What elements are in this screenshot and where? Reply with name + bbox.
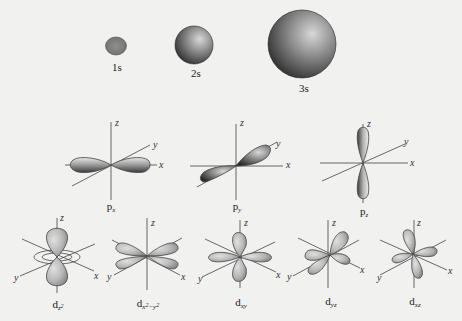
label-py: py xyxy=(233,201,242,214)
axis-label-y: y xyxy=(404,137,408,147)
orbital-shapes xyxy=(0,0,462,321)
label-dyz: dyz xyxy=(325,296,336,309)
orbital-dyz xyxy=(293,220,360,288)
axis-label-x: x xyxy=(410,158,414,168)
orbital-dxz xyxy=(380,220,447,288)
orbital-2s xyxy=(175,26,213,64)
label-3s: 3s xyxy=(299,83,309,94)
axis-label-z: z xyxy=(151,218,155,228)
axis-label-x: x xyxy=(159,160,163,170)
orbital-3s xyxy=(268,10,336,78)
axis-label-y: y xyxy=(276,139,280,149)
label-px: px xyxy=(107,201,116,214)
axis-label-z: z xyxy=(417,218,421,228)
axis-label-z: z xyxy=(332,218,336,228)
axis-label-x: x xyxy=(181,272,185,282)
orbital-pz xyxy=(320,124,408,203)
axis-label-z: z xyxy=(60,213,64,223)
axis-label-y: y xyxy=(14,273,18,283)
label-2s: 2s xyxy=(191,68,201,79)
orbital-diagram: 1s 2s 3s px py pz dz2 dx2−y2 dxy dyz dxz… xyxy=(0,0,462,321)
label-pz: pz xyxy=(360,206,368,219)
axis-label-z: z xyxy=(115,118,119,128)
label-dx2-y2: dx2−y2 xyxy=(137,298,159,311)
axis-label-z: z xyxy=(240,118,244,128)
label-dxy: dxy xyxy=(235,297,247,310)
axis-label-y: y xyxy=(287,272,291,282)
axis-label-y: y xyxy=(107,272,111,282)
label-dxz: dxz xyxy=(409,296,420,309)
orbital-dxy xyxy=(202,220,276,288)
axis-label-z: z xyxy=(244,218,248,228)
axis-label-x: x xyxy=(286,160,290,170)
orbital-px xyxy=(65,122,157,200)
orbital-dx2-y2 xyxy=(112,218,182,290)
orbital-py xyxy=(190,124,283,200)
axis-label-x: x xyxy=(448,266,452,276)
axis-label-y: y xyxy=(198,274,202,284)
axis-label-y: y xyxy=(153,140,157,150)
axis-label-x: x xyxy=(360,265,364,275)
label-dz2: dz2 xyxy=(52,299,63,312)
axis-label-z: z xyxy=(367,119,371,129)
axis-label-x: x xyxy=(94,271,98,281)
label-1s: 1s xyxy=(112,62,122,73)
orbital-dz2 xyxy=(20,218,95,293)
axis-label-x: x xyxy=(276,270,280,280)
orbital-1s xyxy=(106,37,127,55)
axis-label-y: y xyxy=(377,273,381,283)
